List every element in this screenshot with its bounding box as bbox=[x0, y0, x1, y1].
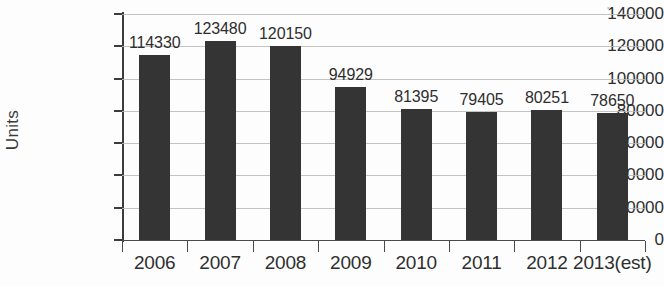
bar bbox=[531, 110, 562, 240]
x-axis-tick-label: 2007 bbox=[199, 252, 240, 274]
bar-chart: Units 0200004000060000800001000001200001… bbox=[0, 0, 664, 287]
x-axis-tick-label: 2011 bbox=[462, 252, 502, 274]
x-axis-tick-label: 2013(est) bbox=[573, 252, 651, 274]
x-axis-tick-label: 2008 bbox=[265, 252, 306, 274]
x-axis-tick-label: 2006 bbox=[134, 252, 175, 274]
x-axis-tick-mark bbox=[580, 241, 581, 252]
bar-value-label: 78650 bbox=[590, 92, 634, 110]
bar-value-label: 81395 bbox=[394, 88, 438, 106]
scan-artifact-speck bbox=[607, 7, 610, 9]
x-axis-tick-label: 2009 bbox=[330, 252, 371, 274]
bar-value-label: 114330 bbox=[129, 34, 181, 52]
gridline bbox=[122, 111, 645, 112]
gridline bbox=[122, 175, 645, 176]
gridline bbox=[122, 79, 645, 80]
x-axis-tick-mark bbox=[645, 241, 646, 252]
x-axis-tick-mark bbox=[187, 241, 188, 252]
x-axis-tick-mark bbox=[449, 241, 450, 252]
x-axis-tick-mark bbox=[514, 241, 515, 252]
gridline bbox=[122, 14, 645, 15]
bar bbox=[205, 41, 236, 240]
bar bbox=[466, 112, 497, 240]
bar-value-label: 79405 bbox=[460, 91, 504, 109]
x-axis-tick-mark bbox=[384, 241, 385, 252]
bar-value-label: 120150 bbox=[259, 25, 312, 43]
bar bbox=[401, 109, 432, 240]
gridline bbox=[122, 46, 645, 47]
bar-value-label: 80251 bbox=[525, 89, 569, 107]
y-axis-title: Units bbox=[3, 95, 23, 165]
bar bbox=[139, 55, 170, 240]
x-axis-tick-mark bbox=[253, 241, 254, 252]
x-axis-tick-label: 2010 bbox=[395, 252, 436, 274]
x-axis-tick-mark bbox=[122, 241, 123, 252]
bar bbox=[597, 113, 628, 240]
bar bbox=[335, 87, 366, 240]
plot-area: 1143301234801201509492981395794058025178… bbox=[122, 14, 645, 240]
bar-value-label: 123480 bbox=[194, 20, 247, 38]
gridline bbox=[122, 143, 645, 144]
x-axis-tick-label: 2012 bbox=[526, 252, 567, 274]
bar-value-label: 94929 bbox=[329, 66, 373, 84]
bar bbox=[270, 46, 301, 240]
gridline bbox=[122, 208, 645, 209]
x-axis-tick-mark bbox=[318, 241, 319, 252]
